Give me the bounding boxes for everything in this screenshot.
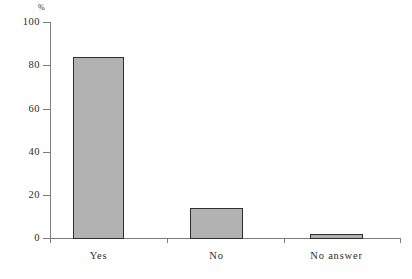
y-tick-label: 80 [29, 60, 41, 71]
y-tick-mark [43, 65, 51, 66]
x-category-label-no-answer: No answer [300, 251, 373, 262]
y-tick-label: 40 [29, 147, 41, 158]
x-category-label-yes: Yes [73, 251, 124, 262]
bar-chart: % 0 20 40 60 80 100 Yes No No answer [0, 0, 412, 279]
y-axis-unit-label: % [38, 4, 45, 12]
y-tick-label: 20 [29, 190, 41, 201]
bar-no [190, 208, 243, 239]
y-tick-mark [43, 22, 51, 23]
bar-yes [73, 57, 124, 239]
x-tick-mark [50, 238, 51, 243]
x-category-label-no: No [190, 251, 243, 262]
y-tick-mark [43, 109, 51, 110]
y-axis-line [50, 22, 51, 238]
x-tick-mark [284, 238, 285, 243]
y-tick-mark [43, 152, 51, 153]
y-tick-label: 60 [29, 104, 41, 115]
y-tick-label: 0 [34, 233, 40, 244]
bar-no-answer [310, 234, 363, 239]
y-tick-mark [43, 195, 51, 196]
y-tick-label: 100 [23, 17, 40, 28]
x-tick-mark [400, 238, 401, 243]
x-tick-mark [167, 238, 168, 243]
